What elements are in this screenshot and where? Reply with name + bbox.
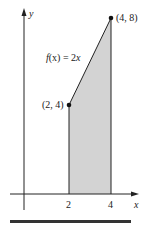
point-4-8 bbox=[109, 16, 114, 21]
area-under-line-diagram: y x 2 4 (4, 8) (2, 4) f(x) = 2x bbox=[0, 0, 149, 226]
point-2-4 bbox=[67, 103, 72, 108]
function-label: f(x) = 2x bbox=[46, 52, 81, 64]
point-right-label: (4, 8) bbox=[116, 12, 138, 24]
x-tick-2: 2 bbox=[66, 199, 71, 210]
shaded-area bbox=[69, 18, 111, 194]
bottom-rule bbox=[10, 220, 131, 223]
function-label-mid: (x) = 2 bbox=[49, 52, 76, 64]
x-axis-label: x bbox=[133, 199, 139, 210]
point-left-label: (2, 4) bbox=[42, 99, 64, 111]
x-tick-4: 4 bbox=[108, 199, 113, 210]
y-axis-arrow-icon bbox=[22, 8, 27, 16]
function-label-x: x bbox=[75, 52, 81, 63]
x-axis-arrow-icon bbox=[131, 192, 139, 197]
y-axis-label: y bbox=[28, 8, 34, 19]
